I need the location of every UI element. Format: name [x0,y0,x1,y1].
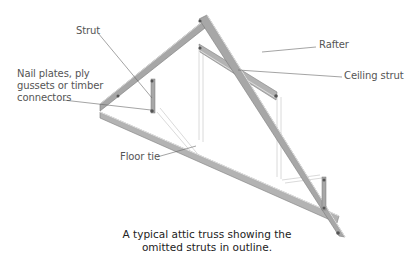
label-nail-plates-3: connectors [17,92,71,104]
label-nail-plates-2: gussets or timber [17,80,103,92]
caption-line-1: A typical attic truss showing the [0,228,414,241]
caption-line-2: omitted struts in outline. [0,241,414,254]
label-rafter: Rafter [319,39,349,51]
attic-truss-figure: Strut Nail plates, ply gussets or timber… [0,0,414,267]
label-ceiling-strut: Ceiling strut [344,70,404,82]
truss-drawing [0,0,414,267]
label-floor-tie: Floor tie [120,151,160,163]
left-vertical-strut [151,79,155,113]
floor-tie-member [100,112,339,223]
label-nail-plates-1: Nail plates, ply [17,68,90,80]
label-strut: Strut [76,25,100,37]
right-vertical-strut [322,177,326,210]
